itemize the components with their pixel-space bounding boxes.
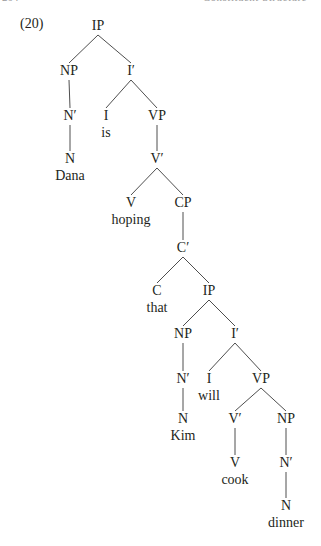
- tree-node-vbar1: V′: [150, 150, 163, 167]
- node-category-label: V′: [228, 410, 241, 427]
- node-lexical-item: Kim: [171, 427, 196, 444]
- tree-node-n1: NDana: [55, 150, 85, 184]
- tree-node-n2: NKim: [171, 410, 196, 444]
- tree-node-c1: Cthat: [147, 282, 168, 316]
- branch-vbar1-cp1: [157, 168, 183, 195]
- tree-node-n3: Ndinner: [268, 497, 304, 531]
- tree-node-i1: Iis: [101, 107, 110, 141]
- node-category-label: N′: [63, 107, 76, 124]
- node-category-label: I′: [127, 62, 135, 79]
- branch-ibar1-i1: [106, 80, 131, 108]
- branch-vbar1-v1: [131, 168, 157, 195]
- branch-cbar1-ip2: [183, 257, 209, 283]
- node-category-label: C: [147, 282, 168, 299]
- node-lexical-item: hoping: [112, 211, 151, 228]
- tree-node-ibar2: I′: [231, 325, 239, 342]
- syntax-tree-figure: 204 Constituent Structure (20) IPNPI′N′I…: [0, 0, 321, 546]
- node-category-label: N′: [279, 454, 292, 471]
- tree-node-i2: Iwill: [198, 370, 220, 404]
- node-lexical-item: dinner: [268, 514, 304, 531]
- branch-ibar1-vp1: [131, 80, 157, 108]
- node-category-label: V: [221, 454, 248, 471]
- branch-cbar1-c1: [157, 257, 183, 283]
- tree-node-ip1: IP: [92, 17, 104, 34]
- branch-vp2-vbar2: [235, 388, 261, 411]
- node-category-label: NP: [174, 325, 192, 342]
- tree-node-nbar2: N′: [176, 370, 189, 387]
- node-category-label: NP: [277, 410, 295, 427]
- node-category-label: N: [268, 497, 304, 514]
- tree-node-vp1: VP: [148, 107, 166, 124]
- node-category-label: IP: [203, 282, 215, 299]
- branch-ip1-np1: [69, 35, 98, 63]
- tree-branches: [0, 0, 321, 546]
- node-category-label: I′: [231, 325, 239, 342]
- tree-node-np3: NP: [277, 410, 295, 427]
- node-lexical-item: will: [198, 387, 220, 404]
- node-category-label: I: [198, 370, 220, 387]
- branch-ibar2-vp2: [235, 343, 261, 371]
- branch-ip2-ibar2: [209, 300, 235, 326]
- node-lexical-item: Dana: [55, 167, 85, 184]
- branch-ip2-np2: [183, 300, 209, 326]
- node-category-label: N′: [176, 370, 189, 387]
- node-lexical-item: cook: [221, 471, 248, 488]
- node-category-label: N: [171, 410, 196, 427]
- tree-node-vbar2: V′: [228, 410, 241, 427]
- branch-np1-nbar1: [69, 80, 70, 108]
- tree-node-nbar1: N′: [63, 107, 76, 124]
- node-category-label: VP: [148, 107, 166, 124]
- tree-node-np2: NP: [174, 325, 192, 342]
- tree-node-v2: Vcook: [221, 454, 248, 488]
- node-category-label: I: [101, 107, 110, 124]
- tree-node-nbar3: N′: [279, 454, 292, 471]
- node-category-label: IP: [92, 17, 104, 34]
- node-lexical-item: is: [101, 124, 110, 141]
- node-category-label: NP: [60, 62, 78, 79]
- node-category-label: VP: [252, 370, 270, 387]
- tree-node-np1: NP: [60, 62, 78, 79]
- branch-ip1-ibar1: [98, 35, 131, 63]
- node-category-label: CP: [174, 194, 191, 211]
- tree-node-cbar1: C′: [177, 239, 189, 256]
- branch-vp2-np3: [261, 388, 286, 411]
- tree-node-cp1: CP: [174, 194, 191, 211]
- node-category-label: V: [112, 194, 151, 211]
- tree-node-v1: Vhoping: [112, 194, 151, 228]
- tree-node-ibar1: I′: [127, 62, 135, 79]
- branch-ibar2-i2: [209, 343, 235, 371]
- node-category-label: C′: [177, 239, 189, 256]
- node-lexical-item: that: [147, 299, 168, 316]
- tree-node-ip2: IP: [203, 282, 215, 299]
- node-category-label: N: [55, 150, 85, 167]
- node-category-label: V′: [150, 150, 163, 167]
- tree-node-vp2: VP: [252, 370, 270, 387]
